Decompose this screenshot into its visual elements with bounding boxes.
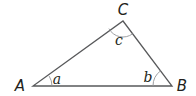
vertex-label-b: B [177,77,187,95]
angle-label-c: c [115,32,123,48]
angle-arc-b [153,71,161,86]
angle-label-b: b [144,69,153,85]
vertex-label-a: A [14,77,25,95]
vertex-label-c: C [118,1,129,19]
angle-arc-a [49,76,52,86]
angle-label-a: a [53,71,61,87]
triangle-diagram: A B C a b c [0,0,196,96]
